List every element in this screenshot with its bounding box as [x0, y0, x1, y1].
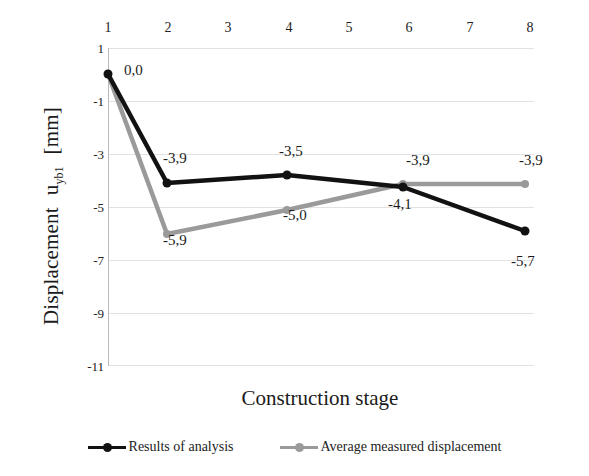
- data-label-results-4: -3,5: [279, 143, 303, 160]
- chart-container: Displacementuyb1[mm] Construction stage …: [0, 0, 589, 476]
- data-label-results-2: -3,9: [163, 150, 187, 167]
- data-label-average-8: -3,9: [519, 152, 543, 169]
- series-point-results-1: [104, 70, 113, 79]
- data-label-average-4: -5,0: [283, 207, 307, 224]
- chart-legend: Results of analysis Average measured dis…: [0, 434, 589, 460]
- series-layer: [0, 0, 589, 476]
- legend-swatch-black-line-icon: [88, 441, 126, 453]
- legend-swatch-gray-line-icon: [280, 441, 318, 453]
- data-label-results-8: -5,7: [511, 253, 535, 270]
- legend-label-results-of-analysis: Results of analysis: [129, 439, 234, 455]
- data-label-results-1: 0,0: [124, 62, 143, 79]
- data-label-average-6: -3,9: [406, 152, 430, 169]
- series-point-average-8: [521, 180, 529, 188]
- data-label-results-6: -4,1: [388, 196, 412, 213]
- legend-label-average-measured-displacement: Average measured displacement: [321, 439, 502, 455]
- data-label-average-2: -5,9: [163, 232, 187, 249]
- legend-item-results-of-analysis: Results of analysis: [88, 439, 234, 455]
- series-point-results-4: [283, 171, 292, 180]
- series-point-results-6: [399, 183, 408, 192]
- legend-item-average-measured-displacement: Average measured displacement: [280, 439, 502, 455]
- series-point-results-8: [521, 227, 530, 236]
- series-point-results-2: [163, 179, 172, 188]
